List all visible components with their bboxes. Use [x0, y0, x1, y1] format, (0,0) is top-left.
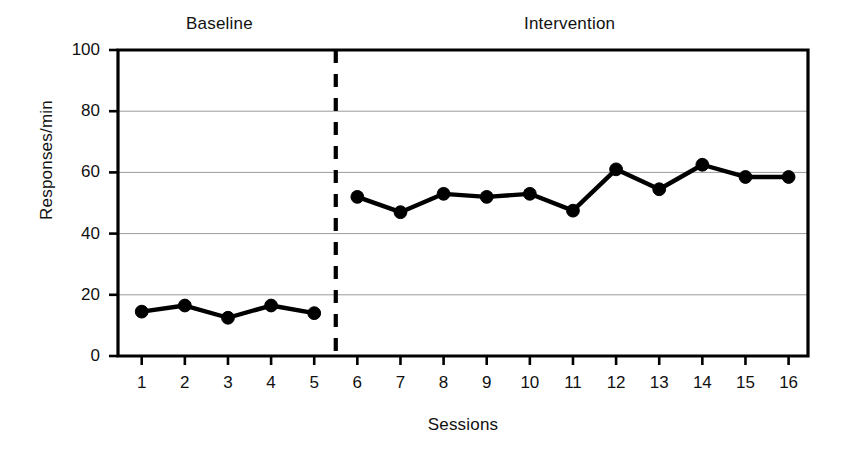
x-tick-label-13: 13 [639, 374, 679, 391]
x-tick-label-15: 15 [725, 374, 765, 391]
data-point-session-2 [178, 299, 191, 312]
x-tick-label-3: 3 [208, 374, 248, 391]
data-point-session-15 [739, 171, 752, 184]
y-tick-label-60: 60 [40, 163, 100, 180]
data-series-markers [135, 158, 795, 324]
data-point-session-12 [610, 163, 623, 176]
phase-label-baseline: Baseline [186, 14, 253, 34]
x-tick-label-1: 1 [122, 374, 162, 391]
y-tick-label-80: 80 [40, 102, 100, 119]
data-point-session-1 [135, 305, 148, 318]
y-axis-title: Responses/min [37, 75, 57, 245]
x-tick-label-5: 5 [294, 374, 334, 391]
data-point-session-13 [653, 183, 666, 196]
y-tick-label-0: 0 [40, 347, 100, 364]
data-point-session-11 [567, 204, 580, 217]
data-point-session-3 [222, 311, 235, 324]
y-tick-label-100: 100 [40, 41, 100, 58]
data-point-session-4 [265, 299, 278, 312]
data-point-session-9 [480, 190, 493, 203]
x-tick-label-8: 8 [424, 374, 464, 391]
data-point-session-10 [523, 187, 536, 200]
axis-frame [118, 50, 808, 356]
data-point-session-16 [782, 171, 795, 184]
plot-axes-frame [118, 50, 808, 356]
x-tick-label-7: 7 [380, 374, 420, 391]
data-point-session-5 [308, 307, 321, 320]
y-tick-label-40: 40 [40, 225, 100, 242]
data-point-session-8 [437, 187, 450, 200]
phase-label-intervention: Intervention [524, 14, 615, 34]
plot-canvas [0, 0, 848, 460]
x-tick-label-2: 2 [165, 374, 205, 391]
chart-figure: Baseline Intervention Responses/min Sess… [0, 0, 848, 460]
x-tick-label-6: 6 [337, 374, 377, 391]
data-point-session-6 [351, 190, 364, 203]
x-tick-label-10: 10 [510, 374, 550, 391]
x-tick-label-9: 9 [467, 374, 507, 391]
data-point-session-7 [394, 206, 407, 219]
x-tick-label-16: 16 [769, 374, 809, 391]
x-tick-label-12: 12 [596, 374, 636, 391]
x-tick-label-14: 14 [682, 374, 722, 391]
x-tick-label-4: 4 [251, 374, 291, 391]
x-axis-title: Sessions [118, 415, 808, 435]
data-point-session-14 [696, 158, 709, 171]
gridlines [118, 111, 808, 295]
x-tick-label-11: 11 [553, 374, 593, 391]
y-tick-label-20: 20 [40, 286, 100, 303]
